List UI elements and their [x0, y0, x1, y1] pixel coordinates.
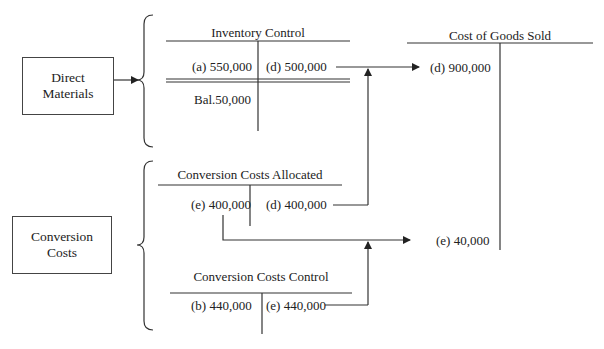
cca-credit: (d) 400,000: [266, 198, 327, 212]
cca-title: Conversion Costs Allocated: [158, 168, 342, 182]
inventory-control-balance: Bal.50,000: [194, 93, 251, 107]
ccc-credit: (e) 440,000: [266, 299, 326, 313]
flow-cca-e-to-cogs: [223, 215, 410, 240]
direct-materials-label-1: Direct: [43, 70, 94, 86]
cca-debit: (e) 400,000: [191, 198, 251, 212]
inventory-control-debit: (a) 550,000: [192, 60, 252, 74]
top-brace: [137, 15, 153, 147]
ccc-debit: (b) 440,000: [191, 299, 252, 313]
cogs-debit-e: (e) 40,000: [436, 234, 489, 248]
inventory-control-credit: (d) 500,000: [266, 60, 327, 74]
cogs-title: Cost of Goods Sold: [407, 29, 593, 43]
inventory-control-title: Inventory Control: [166, 26, 350, 40]
ccc-title: Conversion Costs Control: [170, 270, 352, 284]
direct-materials-box: Direct Materials: [22, 57, 114, 115]
cogs-debit-d: (d) 900,000: [430, 61, 491, 75]
direct-materials-label-2: Materials: [43, 86, 94, 102]
bottom-brace: [137, 161, 153, 330]
conversion-costs-label-1: Conversion: [31, 229, 93, 245]
conversion-costs-box: Conversion Costs: [12, 216, 112, 274]
conversion-costs-label-2: Costs: [31, 245, 93, 261]
